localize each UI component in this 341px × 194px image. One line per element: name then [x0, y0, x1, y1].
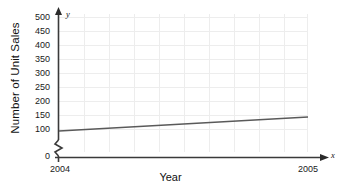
y-tick-label-300: 300 — [22, 69, 50, 78]
vertical-gridlines — [85, 14, 308, 152]
line-chart: 500 450 400 350 300 250 200 150 100 0 20… — [0, 0, 341, 194]
y-axis-letter: y — [66, 9, 70, 19]
y-tick-label-450: 450 — [22, 27, 50, 36]
y-tick-label-400: 400 — [22, 41, 50, 50]
y-axis-arrow-icon — [55, 7, 62, 15]
x-axis-letter: x — [331, 150, 335, 160]
data-series-line — [59, 117, 308, 131]
y-tick-label-150: 150 — [22, 111, 50, 120]
y-tick-label-250: 250 — [22, 83, 50, 92]
y-tick-label-350: 350 — [22, 55, 50, 64]
y-tick-label-zero: 0 — [22, 152, 50, 161]
horizontal-gridlines — [59, 18, 308, 130]
y-axis-title: Number of Unit Sales — [7, 8, 23, 148]
y-axis-title-text: Number of Unit Sales — [9, 22, 21, 133]
y-tick-label-100: 100 — [22, 125, 50, 134]
axis-break-icon — [55, 140, 62, 156]
x-axis-title: Year — [0, 171, 341, 183]
y-tick-label-500: 500 — [22, 13, 50, 22]
x-axis-arrow-icon — [320, 154, 329, 161]
y-tick-label-200: 200 — [22, 97, 50, 106]
